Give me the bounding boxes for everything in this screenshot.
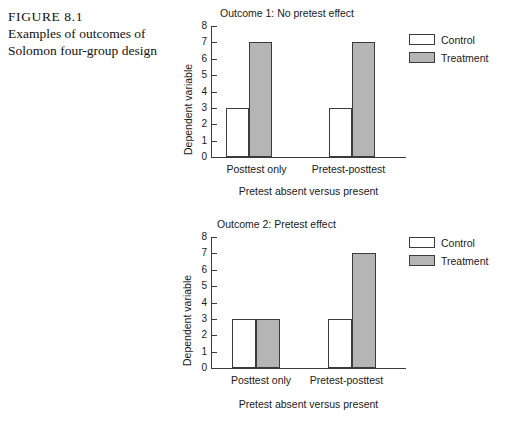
figure-number: FIGURE 8.1: [8, 8, 176, 25]
x-axis-title: Pretest absent versus present: [211, 398, 406, 410]
x-axis-line: [211, 157, 406, 158]
x-category-label-pretest-posttest: Pretest-posttest: [294, 374, 399, 386]
y-tick-8: 8: [211, 237, 217, 238]
bar-treatment-posttest-only: [256, 319, 280, 368]
y-tick-0: 0: [211, 157, 217, 158]
y-tick-6: 6: [211, 59, 217, 60]
y-axis-title: Dependent variable: [181, 275, 193, 366]
figure-description: Examples of outcomes of Solomon four-gro…: [8, 25, 176, 59]
y-tick-6: 6: [211, 270, 217, 271]
legend-item-control: Control: [409, 235, 519, 250]
chart-legend: Control Treatment: [409, 235, 519, 271]
legend-swatch-control-icon: [409, 237, 435, 248]
legend-item-treatment: Treatment: [409, 253, 519, 268]
x-axis-title: Pretest absent versus present: [211, 185, 406, 197]
chart-legend: Control Treatment: [409, 32, 519, 68]
plot-area: 8 7 6 5 4 3 2 1 0: [211, 237, 406, 369]
bar-treatment-pretest-posttest: [352, 253, 376, 368]
bar-control-posttest-only: [226, 108, 249, 157]
chart-panel-outcome-2: Outcome 2: Pretest effect Dependent vari…: [176, 212, 521, 426]
legend-swatch-treatment-icon: [409, 255, 435, 266]
y-tick-2: 2: [211, 124, 217, 125]
chart-panel-outcome-1: Outcome 1: No pretest effect Dependent v…: [176, 0, 521, 210]
legend-label-treatment: Treatment: [441, 52, 488, 64]
y-tick-7: 7: [211, 42, 217, 43]
bar-treatment-posttest-only: [249, 42, 272, 157]
y-tick-5: 5: [211, 75, 217, 76]
bar-control-pretest-posttest: [329, 108, 352, 157]
x-axis-line: [211, 368, 406, 369]
legend-item-control: Control: [409, 32, 519, 47]
bar-control-posttest-only: [232, 319, 256, 368]
y-tick-0: 0: [211, 368, 217, 369]
y-tick-1: 1: [211, 352, 217, 353]
chart-title: Outcome 2: Pretest effect: [217, 218, 336, 230]
y-tick-7: 7: [211, 253, 217, 254]
bar-treatment-pretest-posttest: [352, 42, 375, 157]
legend-label-treatment: Treatment: [441, 255, 488, 267]
chart-title: Outcome 1: No pretest effect: [220, 7, 354, 19]
legend-label-control: Control: [441, 34, 475, 46]
plot-area: 8 7 6 5 4 3 2 1 0: [211, 26, 406, 158]
x-category-label-posttest-only: Posttest only: [211, 163, 302, 175]
y-tick-5: 5: [211, 286, 217, 287]
y-tick-4: 4: [211, 92, 217, 93]
legend-swatch-treatment-icon: [409, 52, 435, 63]
y-tick-4: 4: [211, 303, 217, 304]
legend-label-control: Control: [441, 237, 475, 249]
figure-caption: FIGURE 8.1 Examples of outcomes of Solom…: [8, 8, 176, 59]
x-category-label-pretest-posttest: Pretest-posttest: [296, 163, 401, 175]
bar-control-pretest-posttest: [328, 319, 352, 368]
y-tick-2: 2: [211, 335, 217, 336]
y-tick-1: 1: [211, 141, 217, 142]
y-tick-8: 8: [211, 26, 217, 27]
legend-swatch-control-icon: [409, 34, 435, 45]
legend-item-treatment: Treatment: [409, 50, 519, 65]
y-tick-3: 3: [211, 319, 217, 320]
y-tick-3: 3: [211, 108, 217, 109]
